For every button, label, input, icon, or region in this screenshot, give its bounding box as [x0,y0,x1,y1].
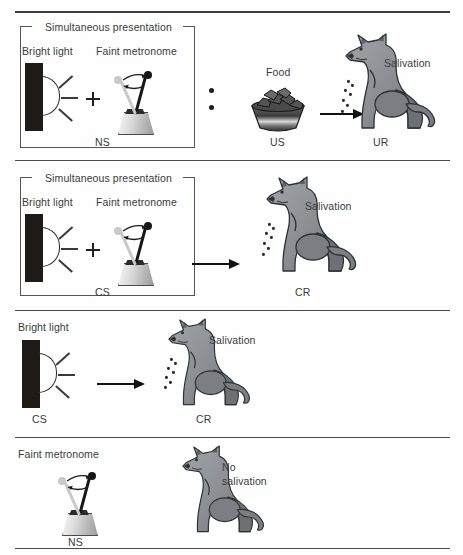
arrow-right-panel2 [192,258,242,270]
metronome-motion-arrows [108,64,164,134]
dog-illustration-no-salivation [172,443,272,545]
code-cs-panel2: CS [95,286,110,298]
colon-separator-icon [209,88,215,116]
light-ray-middle [61,97,78,99]
faint-metronome-icon [108,64,164,134]
label-salivation-panel3: Salivation [209,334,256,346]
code-ur: UR [373,136,388,148]
label-no-salivation-line1: No [222,461,236,473]
bracket-corner-right [183,26,195,27]
light-ray-middle [58,374,75,376]
faint-metronome-icon-2 [108,215,164,285]
label-faint-metronome-2: Faint metronome [96,196,177,208]
code-cs-panel3: CS [32,413,47,425]
lamp-bulb [41,76,60,116]
label-faint-metronome-4: Faint metronome [18,448,99,460]
divider-rule-bottom [15,548,450,549]
salivation-droplets-panel2 [259,223,279,259]
light-ray-lower [58,108,72,121]
label-food: Food [266,66,290,78]
light-ray-lower [55,385,69,398]
metronome-motion-arrows [108,215,164,285]
code-ns-panel4: NS [68,536,83,548]
bracket-label-simultaneous: Simultaneous presentation [41,21,176,33]
label-bright-light-3: Bright light [18,321,69,333]
panel-acquisition-before: Simultaneous presentation Bright light F… [0,0,463,160]
classical-conditioning-figure: Simultaneous presentation Bright light F… [0,0,463,555]
lamp-bulb [38,353,57,393]
salivation-droplets-panel3 [161,358,181,392]
code-us: US [270,136,285,148]
bright-light-icon-3 [22,340,82,408]
metronome-motion-arrows [52,465,108,535]
light-ray-middle [61,248,78,250]
label-no-salivation-line2: salivation [222,475,267,487]
panel-light-alone: Bright light CS [0,310,463,437]
bracket-corner-left [20,177,32,178]
food-bowl-icon [244,85,312,139]
bracket-corner-left [20,26,32,27]
bracket-corner-right [183,177,195,178]
plus-sign-icon-2 [86,243,100,257]
code-ns: NS [95,136,110,148]
light-ray-upper [58,226,72,239]
bright-light-icon-2 [25,214,85,282]
panel-acquisition-after: Simultaneous presentation Bright light F… [0,160,463,310]
panel-metronome-alone: Faint metronome NS [0,437,463,548]
label-faint-metronome: Faint metronome [96,45,177,57]
label-salivation-panel1: Salivation [384,57,431,69]
label-bright-light-2: Bright light [22,196,73,208]
faint-metronome-icon-4 [52,465,108,535]
bright-light-icon [25,63,85,131]
label-bright-light: Bright light [22,45,73,57]
lamp-bulb [41,227,60,267]
bracket-label-simultaneous-2: Simultaneous presentation [41,172,176,184]
arrow-right-panel3 [97,378,147,390]
label-salivation-panel2: Salivation [305,200,352,212]
code-cr-panel3: CR [196,413,211,425]
light-ray-upper [58,75,72,88]
light-ray-upper [55,352,69,365]
code-cr-panel2: CR [295,286,310,298]
plus-sign-icon [86,92,100,106]
light-ray-lower [58,259,72,272]
salivation-droplets-panel1 [338,80,358,116]
